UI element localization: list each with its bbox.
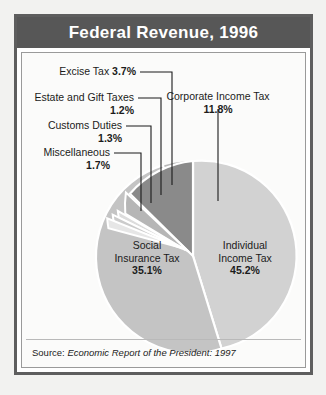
chart-frame: Federal Revenue, 1996 [14,14,313,375]
chart-panel: Excise Tax 3.7% Estate and Gift Taxes 1.… [21,52,306,368]
source-note: Source: Economic Report of the President… [32,347,236,358]
title-bar: Federal Revenue, 1996 [17,17,310,48]
label-social-insurance-tax: Social Insurance Tax 35.1% [102,239,192,277]
label-estate-and-gift-taxes: Estate and Gift Taxes 1.2% [22,91,134,116]
label-excise-tax: Excise Tax 3.7% [22,65,136,78]
label-miscellaneous: Miscellaneous 1.7% [22,146,110,171]
source-divider [26,339,301,340]
label-corporate-income-tax: Corporate Income Tax 11.8% [158,90,278,115]
chart-title: Federal Revenue, 1996 [69,23,259,43]
label-individual-income-tax: Individual Income Tax 45.2% [200,239,290,277]
label-customs-duties: Customs Duties 1.3% [22,119,122,144]
